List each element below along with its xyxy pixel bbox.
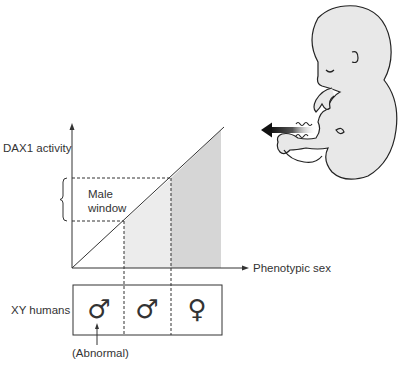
x-axis-label: Phenotypic sex [253, 263, 331, 275]
x-axis-arrowhead [242, 266, 249, 271]
male-window-shade [124, 178, 171, 268]
male-symbol-icon: ♂ [127, 296, 167, 322]
female-region-shade [171, 130, 221, 268]
male-window-brace [60, 178, 67, 221]
fetus-illustration [277, 6, 396, 179]
y-axis-label: DAX1 activity [3, 143, 71, 155]
window-label-window: window [88, 203, 126, 215]
y-axis-arrowhead [70, 123, 75, 130]
female-symbol-icon: ♀ [177, 296, 217, 322]
row-label-xy-humans: XY humans [11, 305, 70, 317]
male-symbol-abnormal-icon: ♂ [79, 296, 119, 322]
abnormal-annotation: (Abnormal) [72, 348, 129, 360]
window-label-male: Male [88, 189, 113, 201]
